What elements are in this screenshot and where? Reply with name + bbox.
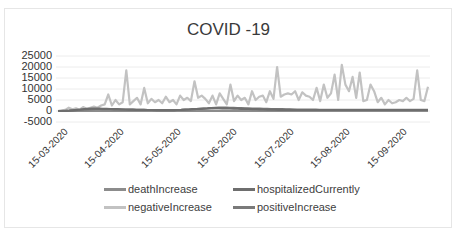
plot-area xyxy=(0,0,457,234)
legend-item-positive-increase: positiveIncrease xyxy=(233,201,337,213)
legend-swatch-icon xyxy=(104,206,126,209)
legend-swatch-icon xyxy=(233,206,255,209)
legend-swatch-icon xyxy=(233,188,255,191)
series-lines xyxy=(58,65,428,111)
legend-label: negativeIncrease xyxy=(128,201,212,213)
legend-item-hospitalized-currently: hospitalizedCurrently xyxy=(233,183,360,195)
legend-label: hospitalizedCurrently xyxy=(257,183,360,195)
legend-swatch-icon xyxy=(104,188,126,191)
legend-item-death-increase: deathIncrease xyxy=(104,183,198,195)
legend-label: positiveIncrease xyxy=(257,201,337,213)
legend-label: deathIncrease xyxy=(128,183,198,195)
legend-item-negative-increase: negativeIncrease xyxy=(104,201,212,213)
series-line-negativeIncrease xyxy=(58,65,428,111)
